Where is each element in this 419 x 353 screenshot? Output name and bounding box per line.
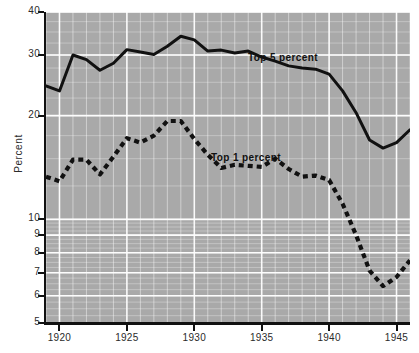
chart-container: 4030201098765 192019251930193519401945 P… (0, 0, 419, 353)
x-tick-mark (396, 325, 398, 331)
x-tick-mark (328, 325, 330, 331)
series-path-top-1-percent (46, 121, 410, 286)
x-tick-label: 1920 (37, 332, 81, 343)
x-tick-label: 1925 (105, 332, 149, 343)
y-axis-title: Percent (13, 124, 24, 184)
x-tick-mark (193, 325, 195, 331)
x-tick-mark (126, 325, 128, 331)
y-tick-label: 9 (16, 228, 40, 239)
y-tick-label: 20 (16, 109, 40, 120)
x-tick-label: 1935 (240, 332, 284, 343)
x-tick-label: 1940 (307, 332, 351, 343)
y-tick-label: 7 (16, 266, 40, 277)
data-series-layer (46, 12, 410, 323)
y-tick-label: 8 (16, 246, 40, 257)
x-tick-mark (261, 325, 263, 331)
y-tick-label: 40 (16, 5, 40, 16)
series-label-top-1-percent: Top 1 percent (211, 152, 281, 163)
x-tick-mark (58, 325, 60, 331)
x-tick-label: 1945 (375, 332, 419, 343)
y-tick-label: 6 (16, 289, 40, 300)
series-label-top-5-percent: Top 5 percent (248, 52, 318, 63)
x-axis-line (44, 322, 410, 325)
x-tick-label: 1930 (172, 332, 216, 343)
y-tick-label: 10 (16, 212, 40, 223)
y-tick-label: 30 (16, 48, 40, 59)
y-tick-label: 5 (16, 316, 40, 327)
series-path-top-5-percent (46, 36, 410, 148)
y-axis-line (44, 12, 46, 325)
plot-area (46, 12, 410, 323)
